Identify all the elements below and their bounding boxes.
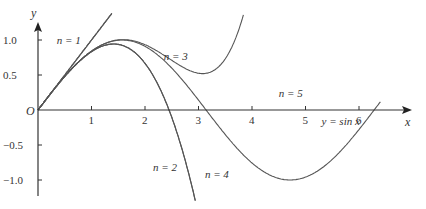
- x-tick-label: 1: [89, 114, 95, 126]
- curve-label: n = 3: [164, 50, 188, 62]
- origin-label: O: [26, 104, 35, 118]
- curve-labels-layer: y = sin xn = 1n = 2n = 3n = 4n = 5: [57, 34, 360, 180]
- curve-label: y = sin x: [321, 115, 360, 127]
- curve-label: n = 5: [279, 87, 303, 99]
- y-tick-label: 0.5: [3, 69, 17, 81]
- curve-label: n = 4: [205, 168, 229, 180]
- curve-n-5: [38, 15, 243, 110]
- y-tick-label: −0.5: [3, 139, 23, 151]
- y-tick-label: 1.0: [3, 34, 17, 46]
- x-tick-label: 3: [196, 114, 202, 126]
- curve-label: n = 1: [57, 34, 81, 46]
- taylor-approximation-chart: x y O 1234561.00.5−0.5−1.0 y = sin xn = …: [0, 0, 426, 209]
- y-tick-label: −1.0: [3, 174, 23, 186]
- x-tick-label: 4: [249, 114, 255, 126]
- x-axis-label: x: [404, 115, 411, 129]
- x-tick-label: 2: [142, 114, 148, 126]
- x-tick-label: 5: [303, 114, 309, 126]
- curve-label: n = 2: [153, 161, 177, 173]
- chart-canvas: x y O 1234561.00.5−0.5−1.0 y = sin xn = …: [0, 0, 426, 209]
- y-axis-label: y: [30, 6, 37, 20]
